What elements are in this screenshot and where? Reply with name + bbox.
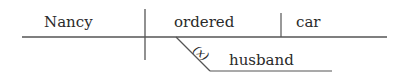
diagram-lines [0, 0, 404, 79]
object-word: car [296, 15, 321, 30]
modifier-word: husband [229, 53, 294, 68]
sentence-diagram: Nancy ordered car (x) husband [0, 0, 404, 79]
subject-word: Nancy [44, 15, 93, 30]
verb-word: ordered [174, 15, 234, 30]
